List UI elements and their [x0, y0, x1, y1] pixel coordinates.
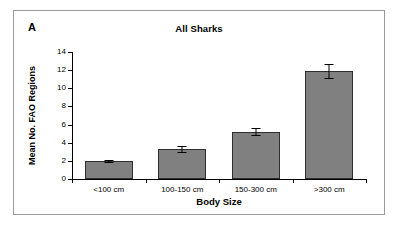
error-bar-cap-lower: [325, 78, 334, 79]
y-axis-tick-label: 4: [62, 139, 66, 147]
y-axis-tick-label: 2: [62, 157, 66, 165]
bar-group: [85, 52, 133, 179]
error-bar-cap-upper: [325, 64, 334, 65]
bar: [85, 161, 133, 179]
y-axis-tick-label: 0: [62, 175, 66, 183]
y-axis-tick-label: 6: [62, 121, 66, 129]
y-axis-tick: [68, 161, 72, 162]
x-axis-tick: [293, 179, 294, 183]
x-axis-tick-label: 150-300 cm: [219, 186, 293, 194]
bar-group: [158, 52, 206, 179]
y-axis-tick-label: 12: [57, 66, 66, 74]
error-bar-cap-lower: [178, 152, 187, 153]
bar-group: [232, 52, 280, 179]
plot-area: 02468101214 <100 cm100-150 cm150-300 cm>…: [72, 52, 366, 179]
error-bar: [329, 64, 330, 78]
bar: [158, 149, 206, 179]
x-axis-title: Body Size: [72, 197, 366, 207]
x-axis-tick: [219, 179, 220, 183]
figure-panel: A All Sharks Mean No. FAO Regions 024681…: [13, 10, 385, 215]
y-axis-tick: [68, 125, 72, 126]
bar: [232, 132, 280, 179]
x-axis-tick: [72, 179, 73, 183]
y-axis-tick: [68, 143, 72, 144]
y-axis-tick-label: 10: [57, 84, 66, 92]
error-bar-cap-upper: [251, 128, 260, 129]
y-axis-title: Mean No. FAO Regions: [26, 52, 38, 179]
x-axis-tick: [366, 179, 367, 183]
error-bar-cap-lower: [251, 135, 260, 136]
y-axis-tick: [68, 52, 72, 53]
bar: [305, 71, 353, 179]
y-axis-title-text: Mean No. FAO Regions: [28, 66, 37, 165]
y-axis-tick: [68, 88, 72, 89]
error-bar-cap-lower: [104, 162, 113, 163]
x-axis-tick-label: <100 cm: [72, 186, 146, 194]
error-bar-cap-upper: [178, 146, 187, 147]
bar-group: [305, 52, 353, 179]
x-axis-tick-label: >300 cm: [293, 186, 367, 194]
chart-title: All Sharks: [14, 23, 384, 34]
y-axis-tick-label: 14: [57, 48, 66, 56]
y-axis-tick: [68, 106, 72, 107]
x-axis-tick: [146, 179, 147, 183]
y-axis-tick: [68, 70, 72, 71]
y-axis-line: [72, 52, 73, 179]
error-bar: [255, 128, 256, 135]
y-axis-tick-label: 8: [62, 102, 66, 110]
x-axis-tick-label: 100-150 cm: [146, 186, 220, 194]
